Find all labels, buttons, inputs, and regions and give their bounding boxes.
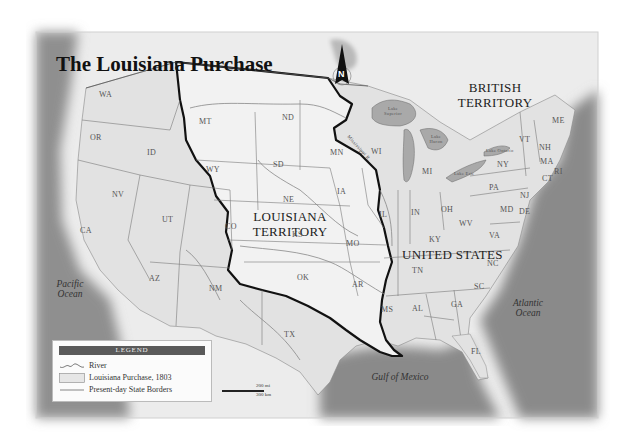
state-label: AZ	[149, 274, 160, 283]
shaded-box-icon	[59, 373, 85, 383]
state-label: IN	[411, 208, 420, 217]
state-label: PA	[489, 183, 499, 192]
state-label: NM	[209, 284, 223, 293]
lake-huron-label: Lake Huron	[426, 134, 446, 144]
state-label: KS	[292, 230, 303, 239]
state-label: IL	[379, 210, 387, 219]
state-label: GA	[451, 300, 463, 309]
state-label: WV	[459, 219, 473, 228]
state-label: KY	[429, 235, 441, 244]
state-label: SC	[474, 282, 484, 291]
state-label: WA	[99, 90, 112, 99]
state-label: ME	[552, 116, 565, 125]
scale-bar: 200 mi 300 km	[222, 382, 282, 398]
state-label: CA	[80, 226, 92, 235]
state-label: SD	[273, 160, 284, 169]
lake-ontario-label: Lake Ontario	[486, 148, 513, 153]
louisiana-territory-label: LOUISIANA TERRITORY	[250, 209, 330, 239]
scale-km: 300 km	[256, 392, 271, 397]
state-label: MT	[199, 117, 212, 126]
state-label: MS	[381, 305, 393, 314]
state-label: ID	[147, 148, 156, 157]
state-label: NY	[497, 160, 509, 169]
state-label: CT	[542, 174, 553, 183]
legend: LEGEND River Louisiana Purchase, 1803 Pr…	[52, 340, 212, 402]
pacific-ocean-label: Pacific Ocean	[50, 279, 90, 299]
state-label: OK	[297, 273, 309, 282]
state-label: OR	[90, 133, 102, 142]
state-label: VA	[489, 231, 500, 240]
gulf-of-mexico-label: Gulf of Mexico	[360, 372, 440, 382]
state-label: WI	[371, 147, 382, 156]
legend-title: LEGEND	[59, 346, 205, 355]
state-label: FL	[471, 347, 481, 356]
state-label: IA	[337, 187, 346, 196]
scale-miles: 200 mi	[256, 383, 270, 388]
state-label: OH	[441, 205, 453, 214]
state-label: AL	[412, 304, 423, 313]
state-label: NH	[539, 143, 551, 152]
thin-line-icon	[59, 385, 85, 395]
river-line-icon	[59, 361, 85, 371]
map-title: The Louisiana Purchase	[56, 52, 273, 77]
state-label: DE	[519, 207, 530, 216]
state-label: AR	[352, 280, 364, 289]
state-label: MI	[422, 167, 432, 176]
state-label: TX	[284, 330, 295, 339]
lake-superior-label: Lake Superior	[382, 106, 404, 116]
state-label: TN	[412, 266, 423, 275]
state-label: WY	[206, 165, 220, 174]
state-label: MD	[500, 205, 514, 214]
state-label: NV	[112, 190, 124, 199]
state-label: ND	[282, 113, 294, 122]
state-label: MA	[540, 157, 554, 166]
north-arrow-icon	[330, 44, 354, 90]
state-label: MN	[330, 148, 344, 157]
state-label: VT	[519, 135, 530, 144]
state-label: NJ	[520, 191, 530, 200]
compass-label: N	[338, 69, 345, 79]
state-label: UT	[162, 215, 173, 224]
state-label: NE	[283, 195, 294, 204]
state-label: CO	[225, 222, 237, 231]
state-label: NC	[487, 259, 499, 268]
british-territory-label: BRITISH TERRITORY	[450, 80, 540, 110]
lake-erie-label: Lake Erie	[454, 171, 474, 176]
atlantic-ocean-label: Atlantic Ocean	[506, 298, 550, 318]
state-label: MO	[346, 239, 360, 248]
state-label: RI	[554, 167, 563, 176]
